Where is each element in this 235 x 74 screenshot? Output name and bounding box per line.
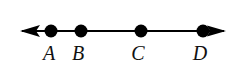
point-label-b: B (65, 43, 91, 63)
point-label-d: D (187, 43, 213, 63)
point-label-c: C (125, 43, 151, 63)
point-dot-d (197, 25, 210, 38)
point-dot-b (75, 25, 88, 38)
number-line-figure: A B C D (0, 0, 235, 74)
point-dot-c (135, 25, 148, 38)
point-dot-a (45, 25, 58, 38)
point-label-a: A (36, 43, 62, 63)
